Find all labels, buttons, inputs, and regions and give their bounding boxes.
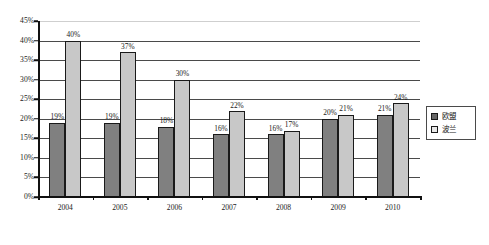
bar-value-label: 24% xyxy=(389,94,413,101)
x-axis-tick-label: 2004 xyxy=(58,203,73,212)
x-axis-tick-mark xyxy=(256,196,258,200)
bar[interactable] xyxy=(158,127,174,197)
y-axis-tick-label: 45% xyxy=(8,17,34,25)
bar-value-label: 22% xyxy=(225,102,249,109)
legend-item[interactable]: 波兰 xyxy=(431,123,471,136)
bar-value-label: 21% xyxy=(334,105,358,112)
plot-area: 19%40%19%37%18%30%16%22%16%17%20%21%21%2… xyxy=(38,21,420,197)
bar[interactable] xyxy=(213,134,229,197)
bar[interactable] xyxy=(229,111,245,197)
bar[interactable] xyxy=(393,103,409,197)
bar[interactable] xyxy=(377,115,393,197)
bar-group: 18%30% xyxy=(147,21,202,197)
x-axis-tick-mark xyxy=(420,196,422,200)
x-axis-tick-mark xyxy=(311,196,313,200)
bar-value-label: 40% xyxy=(61,31,85,38)
bar[interactable] xyxy=(104,123,120,197)
bar-chart: 45%40%35%30%25%20%15%10%5%0% 19%40%19%37… xyxy=(0,0,489,245)
bar-value-label: 30% xyxy=(170,70,194,77)
x-axis-line xyxy=(38,196,422,198)
bar-value-label: 17% xyxy=(280,121,304,128)
bar-group: 20%21% xyxy=(311,21,366,197)
legend-item-label: 波兰 xyxy=(442,126,456,134)
bar[interactable] xyxy=(120,52,136,197)
y-axis-tick-label: 25% xyxy=(8,95,34,103)
y-axis-line xyxy=(38,21,40,198)
x-axis-tick-mark xyxy=(93,196,95,200)
y-axis-tick-label: 0% xyxy=(8,193,34,201)
x-axis-tick-labels: 2004200520062007200820092010 xyxy=(38,203,420,219)
bar[interactable] xyxy=(322,119,338,197)
light-gray-swatch-icon xyxy=(431,126,438,133)
bar-group: 16%22% xyxy=(202,21,257,197)
x-axis-tick-label: 2007 xyxy=(221,203,236,212)
bar-group: 19%40% xyxy=(38,21,93,197)
dark-gray-swatch-icon xyxy=(431,113,438,120)
bar[interactable] xyxy=(268,134,284,197)
y-axis-tick-label: 5% xyxy=(8,174,34,182)
bar[interactable] xyxy=(174,80,190,197)
x-axis-tick-mark xyxy=(147,196,149,200)
chart-legend: 欧盟 波兰 xyxy=(426,106,476,140)
bar[interactable] xyxy=(49,123,65,197)
bar[interactable] xyxy=(338,115,354,197)
y-axis-tick-label: 20% xyxy=(8,115,34,123)
y-axis-tick-label: 30% xyxy=(8,76,34,84)
y-axis-tick-label: 40% xyxy=(8,37,34,45)
x-axis-tick-label: 2010 xyxy=(385,203,400,212)
bar-value-label: 37% xyxy=(116,43,140,50)
y-axis-tick-labels: 45%40%35%30%25%20%15%10%5%0% xyxy=(8,0,34,245)
x-axis-tick-label: 2009 xyxy=(331,203,346,212)
bar-group: 16%17% xyxy=(256,21,311,197)
x-axis-tick-mark xyxy=(365,196,367,200)
x-axis-tick-label: 2008 xyxy=(276,203,291,212)
x-axis-tick-label: 2005 xyxy=(112,203,127,212)
y-axis-tick-label: 10% xyxy=(8,154,34,162)
x-axis-tick-mark xyxy=(202,196,204,200)
x-axis-tick-mark xyxy=(38,196,40,200)
x-axis-tick-label: 2006 xyxy=(167,203,182,212)
legend-item[interactable]: 欧盟 xyxy=(431,110,471,123)
bar-group: 21%24% xyxy=(365,21,420,197)
bar[interactable] xyxy=(284,131,300,197)
bar-group: 19%37% xyxy=(93,21,148,197)
y-axis-tick-label: 15% xyxy=(8,135,34,143)
bar[interactable] xyxy=(65,41,81,197)
legend-item-label: 欧盟 xyxy=(442,113,456,121)
y-axis-tick-label: 35% xyxy=(8,56,34,64)
